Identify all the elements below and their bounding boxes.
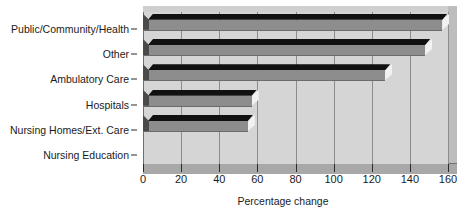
x-tick-label: 140	[401, 173, 419, 185]
category-axis: Public/Community/HealthOtherAmbulatory C…	[0, 14, 137, 166]
x-tick-mark	[296, 164, 297, 172]
category-label: Public/Community/Health	[11, 23, 129, 34]
category-tick	[131, 28, 137, 29]
x-axis: 020406080100120140160	[0, 172, 466, 192]
gridline	[372, 12, 373, 164]
x-tick-mark	[257, 164, 258, 172]
bar-side-face	[143, 14, 149, 30]
x-tick-mark	[219, 164, 220, 172]
category-tick	[131, 155, 137, 156]
bar-top-face	[148, 39, 430, 45]
x-tick-mark	[372, 164, 373, 172]
bar-front-face	[143, 20, 442, 31]
gridline	[410, 12, 411, 164]
category-label: Other	[103, 49, 129, 60]
category-label: Ambulatory Care	[50, 74, 129, 85]
category-label: Hospitals	[86, 99, 129, 110]
gridline	[448, 12, 449, 164]
x-tick-label: 160	[439, 173, 457, 185]
bar	[143, 14, 449, 30]
x-tick-label: 0	[140, 173, 146, 185]
x-tick-mark	[181, 164, 182, 172]
x-tick-label: 60	[251, 173, 263, 185]
bar-front-face	[143, 96, 252, 107]
bar-side-face	[143, 90, 149, 106]
gridline	[334, 12, 335, 164]
x-tick-mark	[410, 164, 411, 172]
category-tick	[131, 104, 137, 105]
gridline	[181, 12, 182, 164]
bar-front-face	[143, 121, 248, 132]
bar-top-face	[148, 64, 390, 70]
bar	[143, 115, 255, 131]
bar-chart: Public/Community/HealthOtherAmbulatory C…	[0, 0, 466, 219]
x-axis-title: Percentage change	[0, 195, 466, 207]
bar	[143, 39, 432, 55]
gridline	[296, 12, 297, 164]
bar	[143, 90, 259, 106]
gridline	[219, 12, 220, 164]
x-tick-label: 40	[213, 173, 225, 185]
bar-side-face	[143, 64, 149, 80]
x-tick-mark	[143, 164, 144, 172]
x-axis-title-label: Percentage change	[237, 195, 328, 207]
x-tick-label: 80	[289, 173, 301, 185]
category-tick	[131, 130, 137, 131]
bar-top-face	[148, 14, 447, 20]
x-tick-label: 20	[175, 173, 187, 185]
bar-side-face	[143, 39, 149, 55]
bar-front-face	[143, 70, 385, 81]
bar-top-face	[148, 90, 257, 96]
x-tick-label: 100	[324, 173, 342, 185]
x-tick-mark	[448, 164, 449, 172]
category-label: Nursing Homes/Ext. Care	[10, 125, 129, 136]
bar-side-face	[143, 115, 149, 131]
x-tick-mark	[334, 164, 335, 172]
category-label: Nursing Education	[43, 150, 129, 161]
gridline	[257, 12, 258, 164]
bar	[143, 64, 392, 80]
category-tick	[131, 79, 137, 80]
category-tick	[131, 54, 137, 55]
bar-top-face	[148, 115, 253, 121]
plot-area	[143, 12, 448, 164]
x-tick-label: 120	[363, 173, 381, 185]
plot-right-wall	[448, 6, 457, 164]
bar-front-face	[143, 45, 425, 56]
